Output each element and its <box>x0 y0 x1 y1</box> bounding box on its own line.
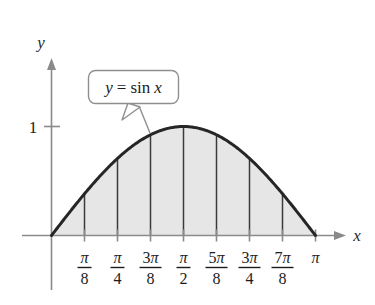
fraction-denominator: 2 <box>180 270 188 287</box>
y-tick-label-1: 1 <box>29 118 38 137</box>
sine-area-figure: y x 1 π8π43π8π25π83π47π8π y=sinx <box>0 0 375 305</box>
x-tick-label-3pi-over-8: 3π8 <box>140 249 162 287</box>
callout-equation-function: sin <box>130 78 150 97</box>
y-axis-arrowhead <box>47 58 56 70</box>
callout-equation-lhs: y <box>103 78 113 97</box>
callout-equation-operator: = <box>117 78 127 97</box>
fraction-numerator: 3π <box>241 249 258 266</box>
fraction-numerator: 3π <box>142 249 159 266</box>
fraction-denominator: 8 <box>213 270 221 287</box>
callout-equation-argument: x <box>153 78 162 97</box>
x-tick-label-pi-over-2: π2 <box>177 249 191 287</box>
fraction-denominator: 8 <box>147 270 155 287</box>
x-tick-label-pi: π <box>311 249 320 266</box>
x-tick-label-pi-over-4: π4 <box>111 249 125 287</box>
y-axis-label: y <box>35 33 45 52</box>
x-tick-label-pi-over-8: π8 <box>78 249 92 287</box>
fraction-numerator: 7π <box>274 249 291 266</box>
callout-pointer-line <box>139 106 150 133</box>
x-axis-arrowhead <box>334 231 346 240</box>
x-axis-tick-labels-group: π8π43π8π25π83π47π8π <box>78 249 321 287</box>
fraction-denominator: 4 <box>114 270 122 287</box>
fraction-denominator: 8 <box>279 270 287 287</box>
fraction-numerator: 5π <box>208 249 225 266</box>
fraction-numerator: π <box>179 249 188 266</box>
x-tick-label-5pi-over-8: 5π8 <box>206 249 228 287</box>
fraction-numerator: π <box>80 249 89 266</box>
x-tick-label-3pi-over-4: 3π4 <box>239 249 261 287</box>
callout-equation: y=sinx <box>103 78 162 97</box>
tick-label-value: π <box>311 249 320 266</box>
x-tick-label-7pi-over-8: 7π8 <box>272 249 294 287</box>
x-axis-label: x <box>352 226 361 245</box>
callout-tail <box>122 103 140 120</box>
fraction-denominator: 4 <box>246 270 254 287</box>
fraction-numerator: π <box>113 249 122 266</box>
fraction-denominator: 8 <box>81 270 89 287</box>
